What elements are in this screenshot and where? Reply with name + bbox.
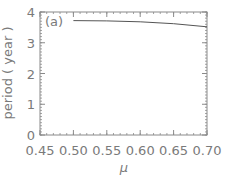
x-tick-label: 0.60: [126, 143, 155, 158]
y-tick-label: 3: [27, 36, 35, 51]
y-tick-label: 0: [27, 128, 35, 143]
plot-frame: [40, 12, 207, 135]
y-tick-label: 1: [27, 97, 35, 112]
series-line: [73, 21, 207, 27]
x-tick-label: 0.55: [92, 143, 121, 158]
panel-label: (a): [45, 14, 63, 29]
y-axis-ticks: 01234: [27, 5, 35, 143]
y-tick-label: 4: [27, 5, 35, 20]
x-tick-label: 0.65: [159, 143, 188, 158]
x-tick-label: 0.70: [193, 143, 222, 158]
y-tick-label: 2: [27, 67, 35, 82]
x-axis-label: μ: [119, 160, 128, 175]
x-tick-label: 0.45: [26, 143, 55, 158]
x-axis-ticks: 0.450.500.550.600.650.70: [26, 143, 222, 158]
x-tick-label: 0.50: [59, 143, 88, 158]
y-axis-label: period ( year ): [0, 27, 15, 120]
line-chart: (a) 01234 0.450.500.550.600.650.70 μ per…: [0, 0, 229, 182]
plot-area: [40, 12, 207, 135]
